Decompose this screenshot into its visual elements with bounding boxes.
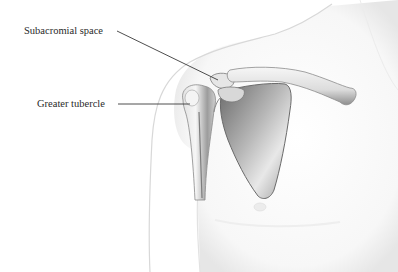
- shoulder-illustration: [0, 0, 398, 272]
- label-greater-tubercle: Greater tubercle: [37, 99, 105, 110]
- label-subacromial-space: Subacromial space: [24, 26, 103, 37]
- shoulder-diagram: Subacromial space Greater tubercle: [0, 0, 398, 272]
